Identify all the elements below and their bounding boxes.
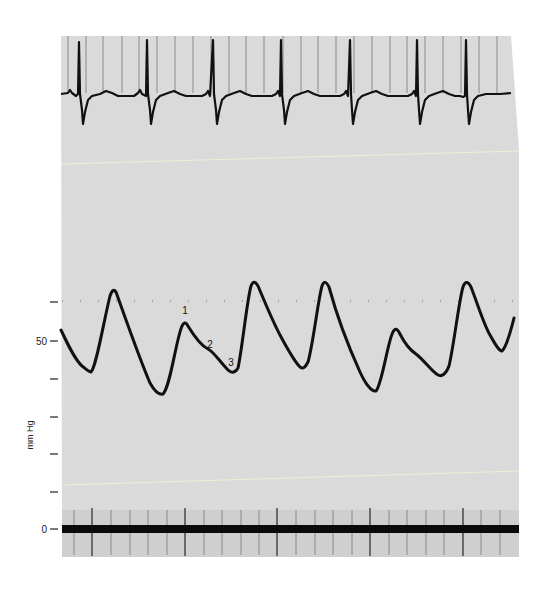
recording-paper (61, 36, 519, 557)
timing-band-shade (62, 510, 519, 557)
tick-label-0: 0 (41, 524, 47, 535)
pressure-recording-chart: 50 0 mm Hg 1 2 3 (0, 0, 546, 589)
y-axis-unit-label: mm Hg (25, 421, 35, 450)
tick-label-50: 50 (36, 336, 48, 347)
y-axis (50, 302, 58, 529)
annotation-3: 3 (228, 357, 234, 368)
zero-baseline (62, 525, 519, 533)
annotation-2: 2 (207, 339, 213, 350)
annotation-1: 1 (182, 305, 188, 316)
